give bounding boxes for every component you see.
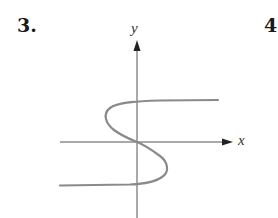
x-axis-label: x [238,133,245,148]
y-axis-arrow-icon [134,40,141,51]
s-curve-graph [0,0,278,218]
s-curve [60,100,218,186]
x-axis-arrow-icon [222,139,233,146]
y-axis-label: y [131,21,138,36]
